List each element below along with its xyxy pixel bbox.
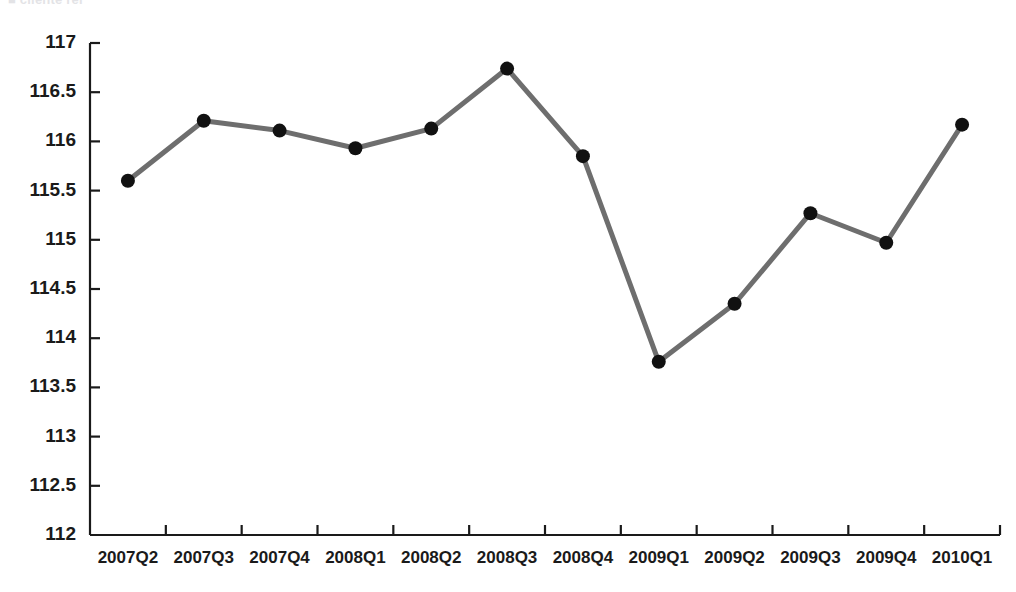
x-axis-ticks xyxy=(166,525,924,535)
y-axis-ticks xyxy=(90,92,100,486)
data-point-marker xyxy=(803,206,817,220)
x-axis-tick-label: 2008Q3 xyxy=(477,548,538,567)
data-point-marker xyxy=(955,118,969,132)
y-axis-tick-label: 113 xyxy=(45,425,76,446)
chart-canvas: 117116.5116115.5115114.5114113.5113112.5… xyxy=(0,0,1016,592)
x-axis-tick-label: 2009Q2 xyxy=(704,548,765,567)
y-axis-tick-label: 115 xyxy=(45,228,76,249)
data-point-marker xyxy=(348,141,362,155)
data-point-marker xyxy=(197,114,211,128)
y-axis-tick-label: 113.5 xyxy=(30,375,77,396)
line-chart: ■ cliente rei 117116.5116115.5115114.511… xyxy=(0,0,1016,592)
x-axis-tick-label: 2009Q1 xyxy=(629,548,690,567)
x-axis-tick-label: 2010Q1 xyxy=(932,548,993,567)
x-axis-tick-label: 2007Q4 xyxy=(249,548,310,567)
y-axis-labels: 117116.5116115.5115114.5114113.5113112.5… xyxy=(30,31,77,544)
y-axis-tick-label: 116.5 xyxy=(30,80,77,101)
y-axis-tick-label: 114.5 xyxy=(30,277,77,298)
y-axis-tick-label: 112.5 xyxy=(30,474,77,495)
x-axis-tick-label: 2008Q2 xyxy=(401,548,462,567)
y-axis-tick-label: 116 xyxy=(45,129,76,150)
data-point-marker xyxy=(121,174,135,188)
data-series-line xyxy=(128,69,962,362)
data-point-marker xyxy=(879,236,893,250)
x-axis-tick-label: 2008Q1 xyxy=(325,548,386,567)
data-point-marker xyxy=(500,62,514,76)
data-point-marker xyxy=(576,149,590,163)
y-axis-tick-label: 115.5 xyxy=(30,179,77,200)
x-axis-tick-label: 2007Q2 xyxy=(98,548,159,567)
data-point-marker xyxy=(652,355,666,369)
data-point-marker xyxy=(728,297,742,311)
x-axis-tick-label: 2008Q4 xyxy=(553,548,614,567)
x-axis-labels: 2007Q22007Q32007Q42008Q12008Q22008Q32008… xyxy=(98,548,993,567)
y-axis-tick-label: 117 xyxy=(45,31,76,52)
data-point-marker xyxy=(273,124,287,138)
y-axis-tick-label: 112 xyxy=(45,523,76,544)
chart-axes xyxy=(90,43,1000,535)
x-axis-tick-label: 2009Q4 xyxy=(856,548,917,567)
data-series-markers xyxy=(121,62,969,369)
x-axis-tick-label: 2007Q3 xyxy=(174,548,235,567)
data-point-marker xyxy=(424,122,438,136)
y-axis-tick-label: 114 xyxy=(45,326,76,347)
x-axis-tick-label: 2009Q3 xyxy=(780,548,841,567)
